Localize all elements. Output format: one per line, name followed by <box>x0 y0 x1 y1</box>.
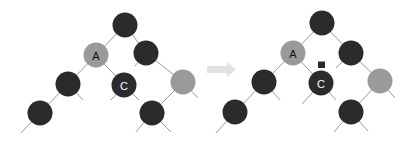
node-c-label: C <box>317 78 325 90</box>
tree-transformation-diagram: A C A C <box>0 0 411 144</box>
tree-before-nodes: A C <box>28 13 196 126</box>
node-right <box>339 41 364 66</box>
node-left <box>56 72 81 97</box>
node-a-label: A <box>289 48 297 60</box>
node-bottom-right <box>140 101 165 126</box>
node-c-label: C <box>120 80 128 92</box>
node-left <box>252 70 277 95</box>
right-arrow-icon <box>207 62 236 77</box>
tree-after-nodes: A C <box>223 11 393 125</box>
node-red-right <box>368 69 393 94</box>
node-right <box>134 41 159 66</box>
node-bottom-right <box>339 100 364 125</box>
node-leftmost <box>223 100 248 125</box>
node-root <box>310 11 335 36</box>
node-leftmost <box>28 101 53 126</box>
node-red-right <box>171 70 196 95</box>
node-root <box>113 13 138 38</box>
node-a-label: A <box>92 50 100 62</box>
black-square-marker-icon <box>318 62 325 69</box>
